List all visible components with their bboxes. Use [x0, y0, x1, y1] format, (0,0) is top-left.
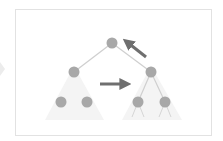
tree-diagram — [0, 0, 223, 141]
edge-root-left — [74, 43, 112, 72]
node-right — [146, 67, 157, 78]
node-left-left — [56, 97, 67, 108]
node-right-left — [133, 97, 144, 108]
node-left-right — [82, 97, 93, 108]
node-root — [107, 38, 118, 49]
node-left — [69, 67, 80, 78]
rotate-up-arrow-icon — [127, 42, 146, 57]
node-right-right — [160, 97, 171, 108]
